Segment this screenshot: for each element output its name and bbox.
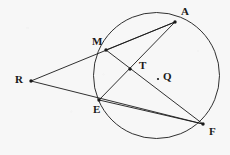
point-label-f: F [209, 126, 216, 137]
point-dot-q [157, 78, 159, 80]
point-label-r: R [15, 74, 23, 85]
point-label-m: M [92, 36, 102, 47]
circle-outline [94, 13, 220, 139]
point-dot-f [201, 122, 204, 125]
point-label-e: E [93, 104, 100, 115]
geometry-canvas [0, 0, 230, 155]
point-dots-group [29, 20, 204, 125]
point-dot-a [173, 20, 176, 23]
point-label-q: Q [163, 71, 172, 82]
chord-A-E [99, 22, 175, 100]
point-dot-r [29, 79, 32, 82]
point-dot-e [97, 98, 100, 101]
point-dot-t [128, 67, 131, 70]
chord-M-A [106, 22, 175, 50]
segment-R-E-F [31, 81, 203, 124]
segments-group [31, 22, 203, 124]
circle-group [94, 13, 220, 139]
point-dot-m [104, 48, 107, 51]
point-label-t: T [139, 60, 146, 71]
geometry-figure: AMREFTQ [0, 0, 230, 155]
point-label-a: A [181, 6, 189, 17]
